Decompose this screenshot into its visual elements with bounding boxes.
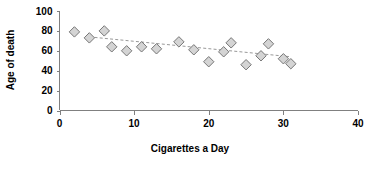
data-point-marker [218,47,228,57]
data-point-marker [151,44,161,54]
data-point-marker [204,57,214,67]
x-tick-label: 20 [203,118,215,129]
x-tick-label: 10 [129,118,141,129]
data-point-marker [189,45,199,55]
data-point-marker [174,37,184,47]
x-axis-ticks: 010203040 [57,111,364,129]
x-axis-title: Cigarettes a Day [151,143,230,154]
data-point-marker [69,27,79,37]
data-point-marker [226,38,236,48]
data-point-marker [136,42,146,52]
data-point-marker [241,60,251,70]
y-tick-label: 80 [41,25,53,36]
data-point-marker [256,51,266,61]
data-point-marker [263,39,273,49]
y-tick-label: 40 [41,65,53,76]
y-tick-label: 20 [41,85,53,96]
data-point-marker [121,46,131,56]
y-tick-label: 100 [36,6,53,17]
data-point-marker [84,33,94,43]
y-axis-ticks: 020406080100 [36,6,60,117]
x-tick-label: 30 [278,118,290,129]
data-point-markers [69,26,296,70]
x-tick-label: 40 [352,118,364,129]
y-tick-label: 60 [41,45,53,56]
data-point-marker [107,42,117,52]
chart-canvas: 020406080100 010203040 Cigarettes a Day … [0,0,377,172]
y-tick-label: 0 [47,105,53,116]
data-point-marker [99,26,109,36]
x-tick-label: 0 [57,118,63,129]
scatter-chart: 020406080100 010203040 Cigarettes a Day … [0,0,377,172]
y-axis-title: Age of death [5,30,16,91]
